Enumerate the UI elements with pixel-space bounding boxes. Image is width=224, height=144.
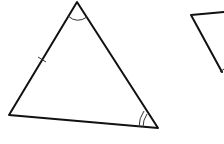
triangle-2-outline [191,12,224,72]
right-angle-double-arc-inner-icon [143,114,147,127]
geometry-diagram [0,0,224,144]
triangle-1 [9,2,158,128]
top-angle-single-arc-icon [68,16,87,20]
triangle-1-outline [9,2,158,128]
triangle-2-partial [191,12,224,72]
